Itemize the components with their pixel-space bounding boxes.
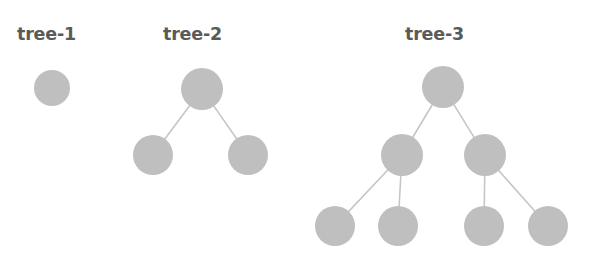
tree-edge: [412, 103, 433, 138]
tree-diagram-svg: tree-1tree-2tree-3: [0, 0, 608, 261]
tree-edge: [399, 174, 401, 208]
tree-node-root: [34, 70, 70, 106]
tree-edge: [164, 104, 191, 140]
tree-node-left-right-leaf: [378, 206, 418, 246]
tree-edge: [453, 103, 475, 139]
tree-node-right-right-leaf: [528, 206, 568, 246]
tree-node-right-left-leaf: [464, 206, 504, 246]
tree-edge: [347, 169, 389, 213]
tree-label-tree-3: tree-3: [405, 24, 464, 44]
tree-node-root: [181, 68, 223, 110]
tree-edge: [498, 169, 536, 212]
labels-layer: tree-1tree-2tree-3: [17, 24, 464, 44]
tree-node-right-child: [464, 134, 506, 176]
tree-label-tree-2: tree-2: [163, 24, 222, 44]
tree-node-right-child: [228, 135, 268, 175]
tree-node-left-child: [133, 135, 173, 175]
tree-edge: [213, 105, 238, 141]
tree-node-left-child: [381, 134, 423, 176]
tree-diagram-canvas: tree-1tree-2tree-3: [0, 0, 608, 261]
tree-label-tree-1: tree-1: [17, 24, 76, 44]
tree-node-root: [422, 66, 464, 108]
tree-node-left-left-leaf: [315, 206, 355, 246]
nodes-layer: [34, 66, 568, 246]
